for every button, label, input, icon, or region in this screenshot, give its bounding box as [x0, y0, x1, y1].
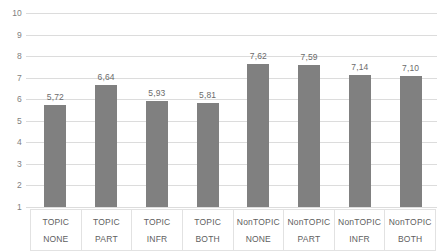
bar [247, 64, 269, 207]
plot-area: 5,726,645,935,817,627,597,147,10 [30, 13, 436, 207]
y-axis-tick-label: 3 [17, 159, 22, 169]
bar-value-label: 7,14 [351, 62, 368, 72]
category-label-line-bottom: BOTH [195, 234, 219, 244]
category-label-line-bottom: INFR [349, 234, 370, 244]
category-label-cell: NonTOPICPART [284, 210, 335, 250]
category-label-line-bottom: NONE [246, 234, 271, 244]
category-label-line-bottom: INFR [147, 234, 168, 244]
bar [44, 105, 66, 207]
category-label-line-top: NonTOPIC [237, 217, 280, 227]
bar [146, 101, 168, 207]
category-label-line-top: TOPIC [194, 217, 221, 227]
bar-group: 6,64 [81, 13, 132, 207]
category-label-line-bottom: PART [298, 234, 321, 244]
y-axis-tick-label: 8 [17, 51, 22, 61]
category-label-cell: NonTOPICBOTH [385, 210, 435, 250]
bar-value-label: 7,59 [300, 52, 317, 62]
category-label-line-bottom: NONE [43, 234, 68, 244]
y-axis-tick-label: 6 [17, 94, 22, 104]
category-label-table: TOPICNONETOPICPARTTOPICINFRTOPICBOTHNonT… [30, 209, 436, 251]
bar [298, 65, 320, 207]
bar-group: 7,14 [335, 13, 386, 207]
category-label-line-bottom: PART [95, 234, 118, 244]
category-label-cell: NonTOPICINFR [335, 210, 386, 250]
category-label-line-top: TOPIC [42, 217, 69, 227]
y-axis-tick-label: 2 [17, 180, 22, 190]
y-axis-tick-label: 7 [17, 73, 22, 83]
bar [400, 76, 422, 207]
bar-group: 5,93 [132, 13, 183, 207]
y-axis-tick-label: 9 [17, 30, 22, 40]
bar-group: 7,62 [233, 13, 284, 207]
bar-group: 5,81 [182, 13, 233, 207]
bar [349, 75, 371, 207]
y-axis-tick-label: 4 [17, 137, 22, 147]
category-label-cell: TOPICINFR [132, 210, 183, 250]
category-label-cell: TOPICNONE [31, 210, 82, 250]
category-label-cell: TOPICBOTH [183, 210, 234, 250]
bar-value-label: 5,72 [47, 92, 64, 102]
gridline [26, 207, 437, 208]
bar-group: 7,10 [385, 13, 436, 207]
category-label-line-top: NonTOPIC [338, 217, 381, 227]
bar-group: 5,72 [30, 13, 81, 207]
bar-value-label: 5,93 [148, 88, 165, 98]
category-label-line-bottom: BOTH [398, 234, 422, 244]
bar-value-label: 6,64 [97, 72, 114, 82]
bar [197, 103, 219, 207]
category-label-cell: NonTOPICNONE [234, 210, 285, 250]
category-label-line-top: NonTOPIC [287, 217, 330, 227]
y-axis-tick-label: 10 [12, 8, 22, 18]
y-axis-tick-label: 1 [17, 202, 22, 212]
category-label-line-top: NonTOPIC [389, 217, 432, 227]
bar-value-label: 7,10 [402, 63, 419, 73]
bar [95, 85, 117, 207]
category-label-cell: TOPICPART [82, 210, 133, 250]
bar-value-label: 5,81 [199, 90, 216, 100]
category-label-line-top: TOPIC [144, 217, 171, 227]
category-label-line-top: TOPIC [93, 217, 120, 227]
bar-chart: 10987654321 5,726,645,935,817,627,597,14… [0, 0, 444, 252]
y-axis-tick-label: 5 [17, 116, 22, 126]
bar-group: 7,59 [284, 13, 335, 207]
bar-value-label: 7,62 [250, 51, 267, 61]
